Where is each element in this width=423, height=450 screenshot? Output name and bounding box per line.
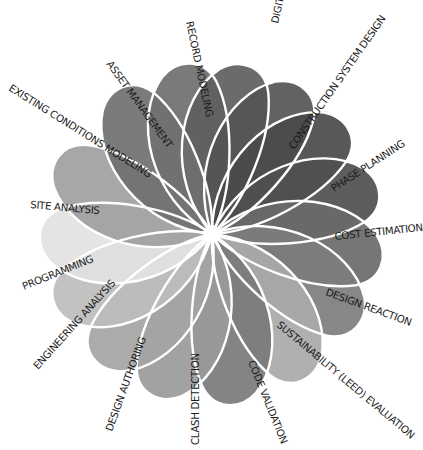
flower-diagram-canvas: RECORD MODELINGDIGITAL FABRICATIONCONSTR… (0, 0, 423, 450)
bim-uses-flower-diagram: RECORD MODELINGDIGITAL FABRICATIONCONSTR… (0, 0, 423, 450)
center-hub (203, 225, 221, 243)
petal-label: CLASH DETECTION (190, 353, 201, 445)
petal-label: DIGITAL FABRICATION (269, 0, 303, 24)
